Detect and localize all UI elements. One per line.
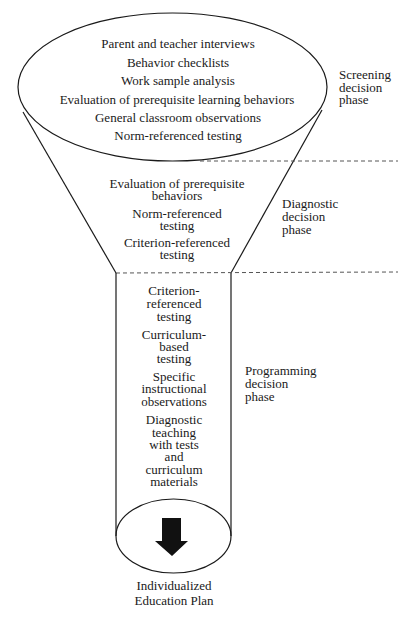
screening-phase-label: phase xyxy=(339,93,369,106)
outcome-label: Individualized xyxy=(136,579,211,592)
screening-item: Work sample analysis xyxy=(121,74,235,87)
diagnostic-item-line: testing xyxy=(160,219,195,232)
programming-item-line: materials xyxy=(150,475,198,488)
down-arrow-icon xyxy=(155,518,188,556)
funnel-right-edge xyxy=(231,110,322,273)
screening-item: General classroom observations xyxy=(95,111,261,124)
diagnostic-programming-divider xyxy=(116,272,398,273)
diagnostic-item-line: behaviors xyxy=(152,189,203,202)
diagnostic-item-line: testing xyxy=(160,248,195,261)
programming-item-line: testing xyxy=(157,352,192,365)
outcome-label: Education Plan xyxy=(134,594,213,607)
screening-item: Parent and teacher interviews xyxy=(101,37,254,50)
funnel-left-edge xyxy=(23,112,116,273)
programming-item-line: testing xyxy=(157,310,192,323)
screening-item: Norm-referenced testing xyxy=(114,129,241,142)
screening-item: Behavior checklists xyxy=(127,56,229,69)
diagnostic-phase-label: phase xyxy=(282,223,312,236)
screening-item: Evaluation of prerequisite learning beha… xyxy=(60,93,295,106)
programming-item-line: observations xyxy=(141,395,207,408)
programming-phase-label: phase xyxy=(245,390,275,403)
